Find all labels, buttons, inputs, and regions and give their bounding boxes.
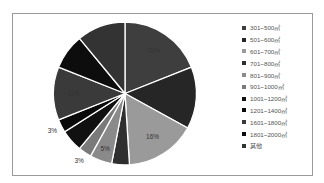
legend-item: 其他 bbox=[242, 140, 312, 152]
legend-item: 301~500㎡ bbox=[242, 22, 312, 34]
legend-label: 1201~1400㎡ bbox=[250, 106, 287, 115]
legend-item: 1801~2000㎡ bbox=[242, 128, 312, 140]
legend-label: 801~900㎡ bbox=[250, 71, 280, 80]
chart-legend: 301~500㎡501~600㎡601~700㎡701~800㎡801~900㎡… bbox=[242, 22, 312, 152]
legend-label: 301~500㎡ bbox=[250, 23, 280, 32]
legend-label: 其他 bbox=[250, 141, 262, 150]
legend-marker-icon bbox=[242, 49, 246, 53]
slice-label: 3% bbox=[74, 157, 84, 164]
slice-label: 11% bbox=[67, 90, 80, 97]
legend-marker-icon bbox=[242, 73, 246, 77]
legend-item: 1601~1800㎡ bbox=[242, 116, 312, 128]
legend-marker-icon bbox=[242, 144, 246, 148]
legend-label: 1601~1800㎡ bbox=[250, 118, 287, 127]
legend-marker-icon bbox=[242, 108, 246, 112]
legend-label: 1801~2000㎡ bbox=[250, 130, 287, 139]
legend-label: 601~700㎡ bbox=[250, 47, 280, 56]
legend-label: 501~600㎡ bbox=[250, 35, 280, 44]
legend-marker-icon bbox=[242, 38, 246, 42]
legend-marker-icon bbox=[242, 85, 246, 89]
legend-marker-icon bbox=[242, 97, 246, 101]
legend-item: 601~700㎡ bbox=[242, 46, 312, 58]
legend-item: 701~800㎡ bbox=[242, 57, 312, 69]
legend-item: 1201~1400㎡ bbox=[242, 105, 312, 117]
legend-marker-icon bbox=[242, 132, 246, 136]
legend-item: 1001~1200㎡ bbox=[242, 93, 312, 105]
legend-label: 901~1000㎡ bbox=[250, 82, 284, 91]
slice-label: 11% bbox=[101, 41, 114, 48]
slice-label: 16% bbox=[146, 133, 159, 140]
slice-label: 19% bbox=[147, 47, 160, 54]
legend-marker-icon bbox=[242, 26, 246, 30]
slice-label: 4% bbox=[117, 148, 127, 155]
slice-label: 3% bbox=[48, 127, 58, 134]
legend-item: 801~900㎡ bbox=[242, 69, 312, 81]
legend-label: 1001~1200㎡ bbox=[250, 94, 287, 103]
legend-item: 501~600㎡ bbox=[242, 34, 312, 46]
legend-marker-icon bbox=[242, 61, 246, 65]
legend-marker-icon bbox=[242, 120, 246, 124]
legend-item: 901~1000㎡ bbox=[242, 81, 312, 93]
slice-label: 5% bbox=[100, 145, 110, 152]
legend-label: 701~800㎡ bbox=[250, 59, 280, 68]
